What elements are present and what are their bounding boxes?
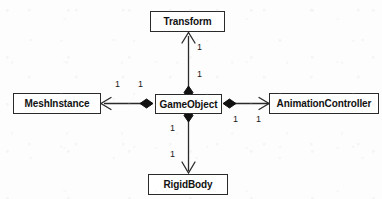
diagram-canvas: Transform MeshInstance GameObject Animat… — [0, 0, 382, 199]
edge-gameobject-transform — [182, 33, 195, 100]
class-node-transform-label: Transform — [163, 16, 211, 27]
class-node-meshinstance[interactable]: MeshInstance — [13, 93, 101, 114]
multiplicity-label-animationcontroller-far: 1 — [256, 115, 261, 124]
multiplicity-label-animationcontroller-near: 1 — [233, 115, 238, 124]
class-node-animationcontroller-label: AnimationController — [277, 98, 372, 109]
class-node-rigidbody[interactable]: RigidBody — [148, 174, 228, 195]
class-node-transform[interactable]: Transform — [150, 11, 225, 32]
class-node-rigidbody-label: RigidBody — [163, 179, 212, 190]
class-node-gameobject-label: GameObject — [160, 99, 218, 110]
class-node-gameobject[interactable]: GameObject — [155, 94, 222, 114]
multiplicity-label-meshinstance-near: 1 — [138, 80, 143, 89]
class-node-meshinstance-label: MeshInstance — [25, 98, 90, 109]
multiplicity-label-rigidbody-near: 1 — [170, 124, 175, 133]
composition-diamond-meshinstance — [140, 99, 153, 108]
edge-gameobject-animationcontroller — [223, 98, 272, 110]
multiplicity-label-transform-near: 1 — [197, 43, 202, 52]
multiplicity-label-rigidbody-far: 1 — [170, 150, 175, 159]
edge-gameobject-meshinstance — [101, 98, 153, 110]
edge-gameobject-rigidbody — [182, 109, 195, 173]
multiplicity-label-transform-far: 1 — [197, 70, 202, 79]
composition-diamond-animationcontroller — [223, 99, 236, 108]
multiplicity-label-meshinstance-far: 1 — [115, 80, 120, 89]
class-node-animationcontroller[interactable]: AnimationController — [269, 93, 379, 114]
